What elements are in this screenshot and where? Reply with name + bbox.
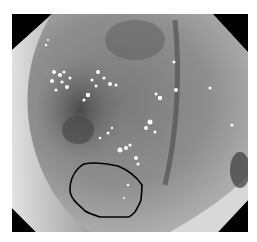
- endoscopy-image-frame: [12, 14, 248, 232]
- endoscopy-image: [12, 14, 248, 232]
